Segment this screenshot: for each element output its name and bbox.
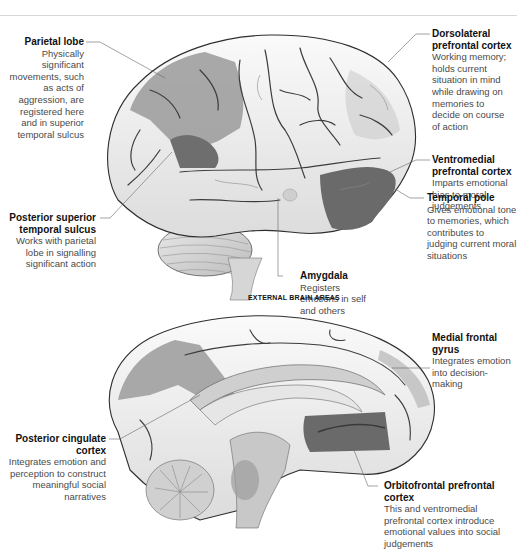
label-title: Amygdala xyxy=(300,270,380,282)
label-posterior-superior-temporal-sulcus: Posterior superior temporal sulcus Works… xyxy=(2,212,96,270)
label-desc: Working memory; holds current situation … xyxy=(432,51,514,132)
label-title: Medial frontal gyrus xyxy=(432,332,516,355)
label-desc: This and ventromedial prefrontal cortex … xyxy=(384,503,517,549)
label-desc: Works with parietal lobe in signalling s… xyxy=(2,235,96,270)
label-temporal-pole: Temporal pole Gives emotional tone to me… xyxy=(427,192,517,262)
label-desc: Gives emotional tone to memories, which … xyxy=(427,204,517,262)
label-title: Orbitofrontal prefrontal cortex xyxy=(384,480,517,503)
external-brain xyxy=(108,35,416,300)
label-orbitofrontal-prefrontal-cortex: Orbitofrontal prefrontal cortex This and… xyxy=(384,480,517,550)
label-title: Ventromedial prefrontal cortex xyxy=(432,154,514,177)
label-medial-frontal-gyrus: Medial frontal gyrus Integrates emotion … xyxy=(432,332,516,390)
label-parietal-lobe: Parietal lobe Physically significant mov… xyxy=(2,36,84,140)
label-desc: Integrates emotion into decision-making xyxy=(432,355,516,390)
label-posterior-cingulate-cortex: Posterior cingulate cortex Integrates em… xyxy=(2,433,106,503)
label-desc: Physically significant movements, such a… xyxy=(2,48,84,141)
label-title: Posterior superior temporal sulcus xyxy=(2,212,96,235)
label-desc: Integrates emotion and perception to con… xyxy=(2,456,106,502)
label-title: Parietal lobe xyxy=(2,36,84,48)
label-dorsolateral-prefrontal-cortex: Dorsolateral prefrontal cortex Working m… xyxy=(432,28,514,132)
label-title: Temporal pole xyxy=(427,192,517,204)
label-title: Posterior cingulate cortex xyxy=(2,433,106,456)
label-title: Dorsolateral prefrontal cortex xyxy=(432,28,514,51)
caption-external-brain-areas: EXTERNAL BRAIN AREAS xyxy=(248,294,340,301)
